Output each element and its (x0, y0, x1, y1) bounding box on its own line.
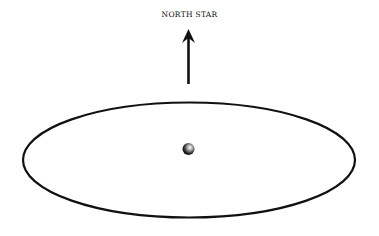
diagram-canvas (0, 0, 379, 236)
orbit-ellipse (23, 103, 355, 218)
direction-arrow (182, 29, 195, 84)
central-sphere (183, 143, 195, 155)
